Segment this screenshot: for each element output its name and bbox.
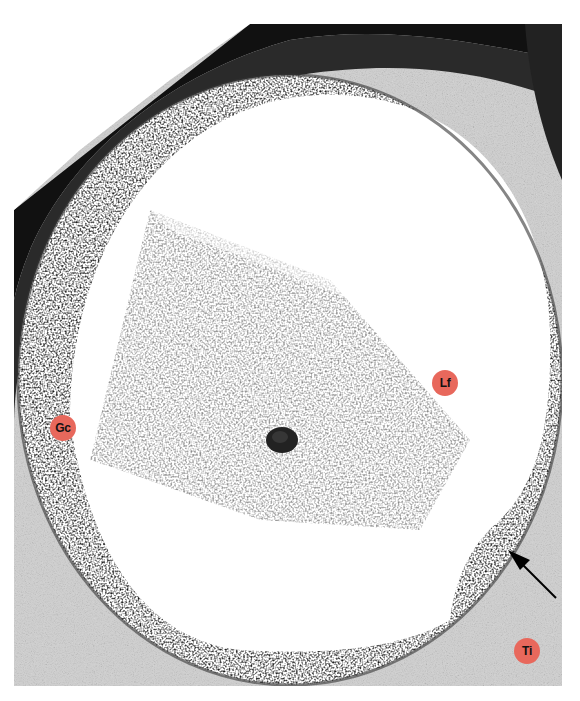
label-theca-interna: Ti: [514, 638, 540, 664]
label-liquor-folliculi: Lf: [432, 370, 458, 396]
label-granulosa-cells: Gc: [50, 415, 76, 441]
follicle-micrograph: [0, 0, 580, 701]
micrograph-figure: Gc Lf Ti: [0, 0, 580, 701]
